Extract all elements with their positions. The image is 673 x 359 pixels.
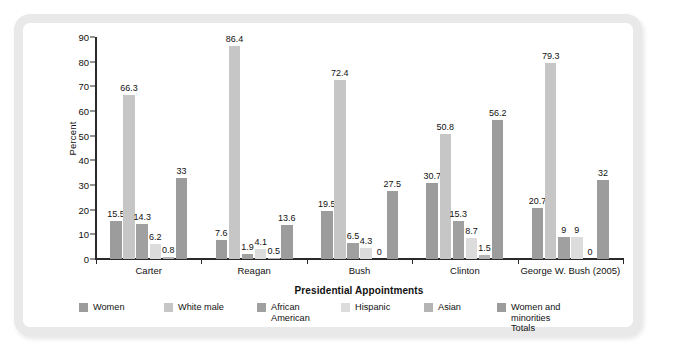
y-tick-label: 10 <box>63 229 89 240</box>
legend-label: Asian <box>438 302 461 313</box>
bar-value-label: 0 <box>377 247 382 257</box>
bar-value-label: 0 <box>587 247 592 257</box>
y-tick-label: 50 <box>63 130 89 141</box>
bar-value-label: 1.9 <box>241 242 254 252</box>
x-group-separator <box>307 258 308 264</box>
bar <box>492 120 504 259</box>
legend-item[interactable]: Women and minorities Totals <box>497 302 599 334</box>
bars-container: 15.566.314.36.20.8337.686.41.94.10.513.6… <box>96 37 623 259</box>
legend-swatch-icon <box>497 303 506 312</box>
y-tick-label: 60 <box>63 106 89 117</box>
bar-value-label: 4.1 <box>254 237 267 247</box>
bar <box>387 191 399 259</box>
bar-value-label: 86.4 <box>226 34 244 44</box>
bar <box>532 208 544 259</box>
bar <box>558 237 570 259</box>
chart-legend: WomenWhite maleAfrican AmericanHispanicA… <box>79 302 599 336</box>
chart-frame-inner: Percent 0102030405060708090 15.566.314.3… <box>23 23 633 327</box>
bar <box>347 243 359 259</box>
legend-item[interactable]: Asian <box>424 302 461 313</box>
legend-item[interactable]: Women <box>79 302 125 313</box>
bar-value-label: 50.8 <box>436 122 454 132</box>
x-category-label: Clinton <box>450 265 480 276</box>
legend-swatch-icon <box>164 303 173 312</box>
bar-value-label: 66.3 <box>120 83 138 93</box>
bar <box>123 95 135 259</box>
chart-page: Percent 0102030405060708090 15.566.314.3… <box>0 0 673 359</box>
bar <box>176 178 188 259</box>
bar-value-label: 8.7 <box>465 226 478 236</box>
x-axis-title: Presidential Appointments <box>95 285 623 296</box>
legend-item[interactable]: Hispanic <box>341 302 390 313</box>
legend-label: Women and minorities Totals <box>511 302 599 334</box>
bar-value-label: 32 <box>598 168 608 178</box>
bar <box>479 255 491 259</box>
x-group-separator <box>201 258 202 264</box>
bar-value-label: 79.3 <box>542 51 560 61</box>
bar-value-label: 30.7 <box>423 171 441 181</box>
x-category-label: Reagan <box>237 265 270 276</box>
bar <box>466 238 478 259</box>
y-tick-label: 70 <box>63 81 89 92</box>
bar-value-label: 27.5 <box>383 179 401 189</box>
bar <box>440 134 452 259</box>
bar-value-label: 1.5 <box>478 243 491 253</box>
bar <box>229 46 241 259</box>
bar-value-label: 56.2 <box>489 108 507 118</box>
bar-value-label: 13.6 <box>278 213 296 223</box>
bar-value-label: 15.3 <box>450 209 468 219</box>
legend-swatch-icon <box>79 303 88 312</box>
y-tick-label: 20 <box>63 204 89 215</box>
bar <box>571 237 583 259</box>
legend-swatch-icon <box>341 303 350 312</box>
bar <box>242 254 254 259</box>
bar <box>597 180 609 259</box>
legend-label: African American <box>271 302 310 323</box>
bar-value-label: 0.8 <box>162 245 175 255</box>
x-group-separator <box>412 258 413 264</box>
bar-value-label: 7.6 <box>215 228 228 238</box>
bar-value-label: 6.2 <box>149 232 162 242</box>
x-category-label: George W. Bush (2005) <box>520 265 620 276</box>
y-axis-ticks: 0102030405060708090 <box>61 37 95 259</box>
bar-value-label: 19.5 <box>318 199 336 209</box>
bar <box>150 244 162 259</box>
x-category-label: Bush <box>349 265 371 276</box>
bar-value-label: 0.5 <box>267 246 280 256</box>
bar <box>453 221 465 259</box>
bar <box>545 63 557 259</box>
bar-value-label: 14.3 <box>133 212 151 222</box>
legend-item[interactable]: White male <box>164 302 224 313</box>
bar-value-label: 9 <box>574 225 579 235</box>
plot-area: Percent 0102030405060708090 15.566.314.3… <box>41 37 631 289</box>
bar <box>334 80 346 259</box>
bar <box>163 257 175 259</box>
legend-swatch-icon <box>257 303 266 312</box>
bar <box>136 224 148 259</box>
bar-value-label: 4.3 <box>360 236 373 246</box>
bar <box>426 183 438 259</box>
legend-swatch-icon <box>424 303 433 312</box>
x-group-separator <box>518 258 519 264</box>
y-tick-label: 0 <box>63 254 89 265</box>
x-group-separator <box>96 258 97 264</box>
x-group-separator <box>623 258 624 264</box>
chart-frame: Percent 0102030405060708090 15.566.314.3… <box>14 14 642 336</box>
bar <box>216 240 228 259</box>
bar <box>110 221 122 259</box>
bar-value-label: 20.7 <box>529 196 547 206</box>
y-tick-label: 30 <box>63 180 89 191</box>
legend-item[interactable]: African American <box>257 302 310 323</box>
bar <box>360 248 372 259</box>
y-tick-label: 90 <box>63 32 89 43</box>
y-tick-label: 40 <box>63 155 89 166</box>
bar-value-label: 72.4 <box>331 68 349 78</box>
bar-value-label: 15.5 <box>107 209 125 219</box>
bar <box>255 249 267 259</box>
bar-value-label: 9 <box>561 225 566 235</box>
bar <box>268 258 280 259</box>
bar <box>281 225 293 259</box>
legend-label: White male <box>178 302 224 313</box>
legend-label: Hispanic <box>355 302 390 313</box>
x-category-label: Carter <box>135 265 161 276</box>
